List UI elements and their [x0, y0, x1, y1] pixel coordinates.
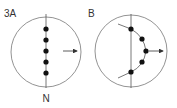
panel-b: B — [88, 8, 167, 88]
dot — [128, 69, 133, 74]
panel-a-bottom-label: N — [42, 93, 49, 104]
dot — [139, 36, 144, 41]
panel-a-label: 3A — [4, 8, 17, 19]
dot — [43, 37, 48, 42]
dot — [43, 48, 48, 53]
dot — [43, 26, 48, 31]
dot — [43, 70, 48, 75]
dot — [139, 59, 144, 64]
panel-a: 3A N — [4, 8, 81, 104]
panel-b-label: B — [88, 8, 95, 19]
dot — [128, 26, 133, 31]
diagram-canvas: 3A N B — [0, 0, 177, 108]
dot — [143, 48, 148, 53]
dot — [43, 59, 48, 64]
